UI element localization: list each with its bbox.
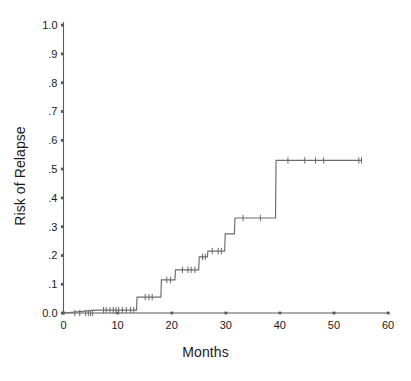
x-tick-label: 60 xyxy=(382,319,394,331)
y-tick-mark xyxy=(61,139,64,142)
y-tick-label: .8 xyxy=(20,77,58,89)
y-axis-title: Risk of Relapse xyxy=(12,116,28,236)
x-tick-label: 20 xyxy=(166,319,178,331)
y-tick-mark xyxy=(61,283,64,286)
caption-edge-strip xyxy=(10,372,401,378)
y-tick-label: .2 xyxy=(20,249,58,261)
y-tick-mark xyxy=(61,254,64,257)
chart-figure: 0.0.1.2.3.4.5.6.7.8.91.0 0102030405060 R… xyxy=(0,0,411,381)
x-tick-label: 50 xyxy=(328,319,340,331)
y-tick-label: .1 xyxy=(20,278,58,290)
x-tick-mark xyxy=(170,312,173,315)
x-axis-title: Months xyxy=(0,344,411,360)
x-tick-mark xyxy=(224,312,227,315)
y-tick-label: 0.0 xyxy=(20,307,58,319)
x-tick-label: 10 xyxy=(111,319,123,331)
x-tick-mark xyxy=(279,312,282,315)
x-tick-label: 0 xyxy=(60,319,66,331)
y-tick-mark xyxy=(61,225,64,228)
y-tick-mark xyxy=(61,53,64,56)
y-tick-mark xyxy=(61,110,64,113)
y-tick-label: .9 xyxy=(20,48,58,60)
y-tick-mark xyxy=(61,168,64,171)
x-tick-label: 40 xyxy=(274,319,286,331)
y-tick-label: 1.0 xyxy=(20,19,58,31)
x-tick-label: 30 xyxy=(220,319,232,331)
x-tick-mark xyxy=(333,312,336,315)
x-tick-mark xyxy=(387,312,390,315)
y-tick-mark xyxy=(61,24,64,27)
y-tick-mark xyxy=(61,81,64,84)
y-tick-mark xyxy=(61,197,64,200)
